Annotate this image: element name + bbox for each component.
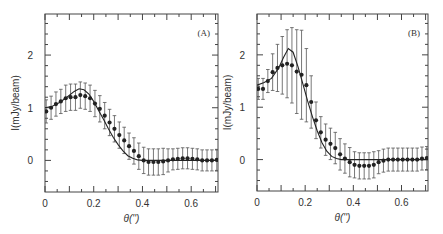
x-tick-label: 0.2 <box>87 198 101 209</box>
panel-label: (A) <box>198 28 211 38</box>
data-point <box>338 152 342 156</box>
plot-area <box>256 28 429 179</box>
y-tick-label: 1 <box>27 103 33 114</box>
data-point <box>319 130 323 134</box>
x-tick-label: 0 <box>254 197 260 208</box>
data-point <box>137 154 141 158</box>
data-point <box>127 144 131 148</box>
data-point <box>304 83 308 87</box>
y-tick-label: 0 <box>27 155 33 166</box>
y-tick-label: 1 <box>239 102 245 113</box>
data-point <box>290 63 294 67</box>
data-point <box>261 87 265 91</box>
x-tick-label: 0.4 <box>136 198 150 209</box>
data-point <box>181 156 185 160</box>
data-point <box>357 164 361 168</box>
figure: 00.20.40.6012θ('')I(mJy/beam)(A) 00.20.4… <box>0 0 443 234</box>
data-point <box>122 138 126 142</box>
data-point <box>78 93 82 97</box>
x-tick-label: 0.6 <box>395 197 409 208</box>
y-tick-label: 2 <box>239 50 245 61</box>
x-axis-label: θ('') <box>335 212 351 223</box>
data-point <box>107 120 111 124</box>
panel-b: 00.20.40.6012θ('')I(mJy/beam)(B) <box>222 14 429 223</box>
data-point <box>367 164 371 168</box>
data-point <box>324 138 328 142</box>
data-point <box>132 149 136 153</box>
y-axis-label: I(mJy/beam) <box>222 75 233 131</box>
data-point <box>285 62 289 66</box>
data-point <box>73 95 77 99</box>
y-axis-label: I(mJy/beam) <box>10 75 21 131</box>
data-point <box>377 160 381 164</box>
data-point <box>362 164 366 168</box>
data-point <box>271 70 275 74</box>
x-tick-label: 0 <box>42 198 48 209</box>
x-tick-label: 0.4 <box>346 197 360 208</box>
y-tick-label: 2 <box>27 50 33 61</box>
y-tick-label: 0 <box>239 155 245 166</box>
data-point <box>117 133 121 137</box>
x-axis-label: θ('') <box>124 213 140 224</box>
data-point <box>372 163 376 167</box>
data-point <box>352 163 356 167</box>
x-tick-label: 0.6 <box>184 198 198 209</box>
data-point <box>83 94 87 98</box>
x-tick-label: 0.2 <box>298 197 312 208</box>
data-point <box>295 70 299 74</box>
data-point <box>309 100 313 104</box>
panel-a: 00.20.40.6012θ('')I(mJy/beam)(A) <box>10 14 219 224</box>
data-point <box>348 160 352 164</box>
data-point <box>112 127 116 131</box>
data-point <box>333 146 337 150</box>
plot-area <box>44 82 219 175</box>
data-point <box>185 156 189 160</box>
panel-label: (B) <box>408 28 420 38</box>
data-point <box>328 142 332 146</box>
data-point <box>103 114 107 118</box>
